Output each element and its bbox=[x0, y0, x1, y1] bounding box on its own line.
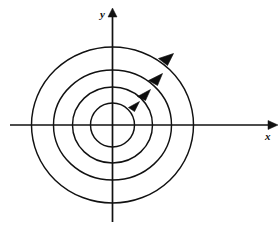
x-axis-label: x bbox=[265, 131, 271, 142]
phase-portrait-canvas bbox=[0, 0, 280, 238]
phase-portrait-figure: y x bbox=[0, 0, 280, 238]
direction-arrow-icon-4 bbox=[159, 54, 174, 66]
direction-arrow-icon-2 bbox=[138, 90, 151, 101]
y-axis-label: y bbox=[100, 9, 105, 20]
y-axis-arrow-icon bbox=[108, 8, 117, 17]
x-axis-arrow-icon bbox=[268, 121, 278, 130]
direction-arrow-icon-1 bbox=[129, 102, 140, 112]
